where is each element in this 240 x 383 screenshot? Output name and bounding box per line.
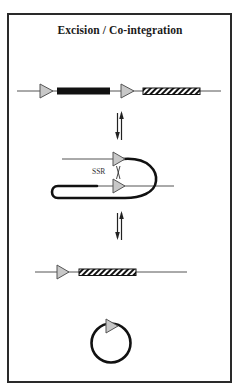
reversible-arrow-icon: [115, 211, 124, 240]
recombination-site-icon: [113, 179, 125, 193]
recombination-site-icon: [40, 84, 53, 98]
recombination-site-icon: [57, 265, 69, 279]
hatched-gene-segment: [79, 269, 136, 276]
hatched-gene-segment: [143, 88, 200, 95]
recombination-site-icon: [113, 152, 125, 166]
synapsis-intermediate: SSR: [52, 152, 174, 198]
black-gene-segment: [57, 88, 110, 95]
recombination-site-icon: [106, 319, 118, 333]
excised-locus: [35, 265, 187, 279]
integrated-construct: [17, 84, 221, 98]
crossover-icon: [117, 166, 121, 179]
reversible-arrow-icon: [115, 111, 124, 140]
ssr-label: SSR: [92, 167, 105, 176]
recombination-site-icon: [121, 84, 134, 98]
circular-product: [92, 319, 131, 363]
dna-loop: [52, 159, 156, 198]
